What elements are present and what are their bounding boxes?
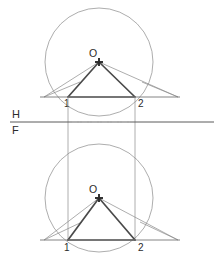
top-view-left-tangent-ray: [44, 62, 99, 97]
top-view-point-label-2: 2: [138, 98, 144, 109]
reference-label-h: H: [12, 108, 20, 120]
front-view-point-label-1: 1: [64, 242, 70, 253]
front-view-right-outer-edge: [140, 222, 178, 240]
top-view-ray-o-to-1: [68, 62, 99, 97]
front-view-left-tangent-ray: [44, 198, 99, 240]
front-view-ray-o-to-1: [68, 198, 99, 240]
top-view-right-outer-edge: [142, 82, 178, 97]
projection-lines-group: [68, 97, 135, 240]
top-view-center-label: O: [89, 47, 97, 59]
reference-label-f: F: [12, 124, 19, 136]
front-view-center-label: O: [89, 183, 97, 195]
projection-diagram: O 1 2 H F: [0, 0, 214, 270]
technical-drawing-canvas: O 1 2 H F: [0, 0, 214, 270]
front-view-right-tangent-ray: [99, 198, 178, 240]
front-view-ray-o-to-2: [99, 198, 135, 240]
front-view-point-label-2: 2: [138, 242, 144, 253]
front-view-left-outer-edge: [44, 222, 82, 240]
top-view-ray-o-to-2: [99, 62, 135, 97]
front-view-group: O 1 2: [40, 144, 180, 253]
top-view-point-label-1: 1: [64, 98, 70, 109]
top-view-group: O 1 2: [40, 8, 180, 116]
reference-line-group: H F: [10, 108, 214, 136]
